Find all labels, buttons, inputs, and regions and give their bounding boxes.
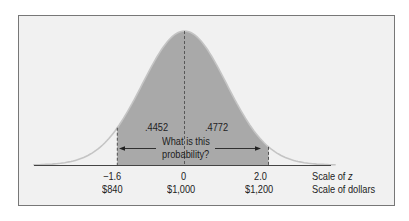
z-tick-0: 0 (181, 170, 186, 182)
question-line-1: What is this (162, 135, 210, 147)
dollar-scale-label: Scale of dollars (312, 183, 375, 195)
dollar-tick-840: $840 (102, 183, 123, 195)
z-scale-prefix: Scale of (312, 170, 348, 182)
question-line-2: probability? (162, 148, 209, 160)
z-scale-label: Scale of z (312, 170, 353, 182)
z-tick-2-0: 2.0 (254, 170, 267, 182)
area-label-left: .4452 (145, 121, 168, 133)
z-tick-neg1-6: −1.6 (103, 170, 121, 182)
z-scale-variable: z (348, 170, 353, 182)
dollar-tick-1200: $1,200 (245, 183, 273, 195)
area-label-right: .4772 (205, 121, 228, 133)
dollar-tick-1000: $1,000 (167, 183, 195, 195)
